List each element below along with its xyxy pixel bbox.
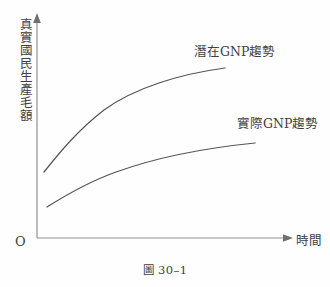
actual-gnp-label: 實際GNP趨勢 [237,113,318,132]
origin-label: O [15,234,26,249]
figure-caption: 圖 30–1 [0,261,330,277]
x-axis-label: 時間 [296,230,322,249]
y-axis-label: 真實國民生產毛額 [11,18,31,122]
y-axis-arrow-icon [33,13,41,23]
potential-gnp-label: 潛在GNP趨勢 [194,41,275,60]
potential-gnp-curve [44,68,225,172]
x-axis-arrow-icon [283,234,293,242]
chart-plot-area [0,0,330,287]
figure-container: 真實國民生產毛額 時間 O 潛在GNP趨勢 實際GNP趨勢 圖 30–1 [0,0,330,287]
actual-gnp-curve [47,143,255,207]
